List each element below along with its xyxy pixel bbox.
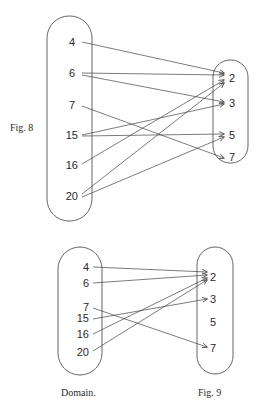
domain-values: 4 6 7 15 16 20: [77, 261, 89, 358]
domain-label: Domain.: [61, 387, 96, 398]
codomain-value: 7: [210, 342, 216, 354]
codomain-value: 7: [229, 151, 235, 163]
arrow-15-to-3: [82, 104, 224, 135]
codomain-value: 3: [229, 97, 235, 109]
arrow-7-to-7: [93, 308, 207, 347]
domain-value: 16: [66, 159, 78, 171]
arrow-16-to-2: [93, 278, 207, 334]
figure-8: Fig. 8 4 6 7 15 16 20 2 3 5 7: [10, 16, 248, 221]
mapping-arrows: [82, 42, 224, 197]
domain-value: 4: [69, 36, 75, 48]
mapping-diagrams: Fig. 8 4 6 7 15 16 20 2 3 5 7: [0, 0, 256, 407]
domain-value: 15: [77, 312, 89, 324]
domain-value: 4: [83, 261, 89, 273]
arrow-4-to-2: [82, 42, 224, 73]
domain-value: 20: [66, 190, 78, 202]
codomain-values: 2 3 5 7: [229, 72, 235, 163]
domain-value: 6: [69, 67, 75, 79]
arrow-15-to-5: [82, 134, 224, 136]
codomain-values: 2 3 5 7: [210, 271, 216, 354]
arrow-6-to-3: [82, 75, 224, 102]
arrow-7-to-7: [82, 106, 224, 158]
arrow-20-to-5: [82, 137, 224, 197]
codomain-value: 5: [210, 316, 216, 328]
codomain-oval: [197, 247, 233, 374]
domain-value: 15: [66, 129, 78, 141]
domain-value: 16: [77, 328, 89, 340]
arrow-6-to-2: [82, 73, 224, 75]
figure-8-caption: Fig. 8: [10, 122, 33, 133]
arrow-20-to-2: [93, 280, 207, 351]
codomain-value: 3: [210, 293, 216, 305]
arrow-16-to-2: [82, 80, 224, 164]
domain-value: 6: [83, 277, 89, 289]
arrow-6-to-2: [93, 275, 207, 283]
codomain-value: 2: [229, 72, 235, 84]
domain-value: 7: [69, 99, 75, 111]
domain-values: 4 6 7 15 16 20: [66, 36, 78, 202]
domain-value: 20: [77, 346, 89, 358]
arrow-4-to-2: [93, 267, 207, 272]
codomain-value: 2: [210, 271, 216, 283]
mapping-arrows: [93, 267, 207, 351]
figure-9: 4 6 7 15 16 20 2 3 5 7 Domain. Fig. 9: [58, 247, 233, 398]
arrow-20-to-2: [82, 83, 224, 194]
figure-9-caption: Fig. 9: [198, 387, 221, 398]
codomain-value: 5: [229, 129, 235, 141]
arrow-15-to-3: [93, 299, 207, 319]
